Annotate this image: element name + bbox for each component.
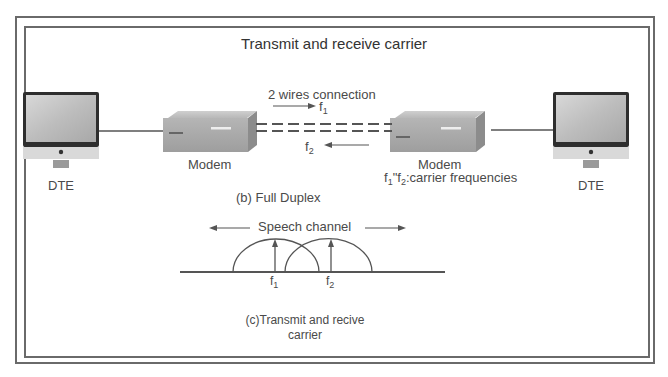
right-dte-label: DTE (578, 178, 604, 193)
carrier-caption-line1: (c)Transmit and recive (0, 313, 610, 327)
right-modem-icon (390, 111, 485, 152)
carrier-caption-line2: carrier (0, 328, 610, 342)
speech-channel-label: Speech channel (258, 219, 351, 234)
left-modem-label: Modem (188, 157, 231, 172)
f2-label: f2 (326, 274, 334, 290)
carrier-frequencies-note: f1"f2:carrier frequencies (384, 170, 517, 187)
forward-frequency-label: f1 (319, 99, 328, 116)
reverse-frequency-label: f2 (305, 139, 314, 156)
right-dte-monitor-icon (553, 92, 629, 168)
left-dte-label: DTE (48, 178, 74, 193)
f1-label: f1 (270, 274, 278, 290)
left-modem-icon (163, 111, 257, 152)
left-dte-monitor-icon (23, 92, 99, 168)
full-duplex-caption: (b) Full Duplex (236, 190, 321, 205)
